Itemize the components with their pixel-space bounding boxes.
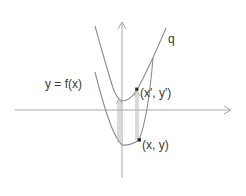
- function-label: y = f(x): [45, 78, 82, 90]
- lower-point-label: (x, y): [142, 139, 169, 151]
- curve-q-label: q: [168, 33, 175, 45]
- function-transformation-figure: y = f(x) q (x', y') (x, y): [0, 0, 246, 196]
- upper-point-label: (x', y'): [140, 87, 171, 99]
- plot-canvas: [0, 0, 246, 196]
- left-connector-arrow: [116, 99, 122, 143]
- point-marker-xprime-yprime: [135, 88, 138, 91]
- x-axis: [15, 106, 231, 114]
- point-marker-x-y: [138, 138, 141, 141]
- curve-original-fx: [95, 58, 153, 145]
